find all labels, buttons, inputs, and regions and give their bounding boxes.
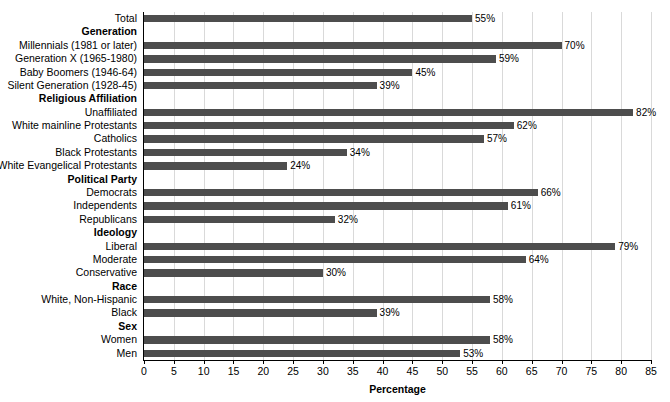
x-tick-label: 75 xyxy=(586,365,598,377)
bar-row: 58% xyxy=(144,333,651,346)
bar-row: 58% xyxy=(144,293,651,306)
category-label: White mainline Protestants xyxy=(12,119,137,132)
x-tick xyxy=(651,360,652,364)
category-label: Millennials (1981 or later) xyxy=(19,39,137,52)
x-tick-label: 25 xyxy=(287,365,299,377)
category-label-row: Women xyxy=(0,333,140,346)
category-label-row: Black xyxy=(0,306,140,319)
group-header-row: Generation xyxy=(0,25,140,38)
x-tick xyxy=(591,360,592,364)
bar-value-label: 62% xyxy=(514,119,537,132)
x-axis-line xyxy=(143,360,652,361)
bar-value-label: 66% xyxy=(538,186,561,199)
category-label: Baby Boomers (1946-64) xyxy=(20,66,137,79)
bar-row: 62% xyxy=(144,119,651,132)
bar xyxy=(144,122,514,129)
category-label-row: Moderate xyxy=(0,253,140,266)
group-header-label: Race xyxy=(112,280,137,293)
x-tick-label: 40 xyxy=(377,365,389,377)
x-tick-label: 0 xyxy=(141,365,147,377)
bar-value-label: 58% xyxy=(490,333,513,346)
category-label-row: Silent Generation (1928-45) xyxy=(0,79,140,92)
bar xyxy=(144,162,287,169)
x-tick xyxy=(442,360,443,364)
category-label-row: Liberal xyxy=(0,240,140,253)
x-tick xyxy=(621,360,622,364)
category-label-row: Conservative xyxy=(0,266,140,279)
category-label: White, Non-Hispanic xyxy=(41,293,137,306)
bar-value-label: 53% xyxy=(460,347,483,360)
group-header-row: Religious Affiliation xyxy=(0,92,140,105)
x-tick xyxy=(174,360,175,364)
bar xyxy=(144,216,335,223)
clipped-title-remnant xyxy=(0,0,670,7)
x-tick-label: 15 xyxy=(228,365,240,377)
bar xyxy=(144,350,460,357)
category-label: Moderate xyxy=(93,253,137,266)
category-label: Independents xyxy=(73,199,137,212)
bar-row: 59% xyxy=(144,52,651,65)
bar xyxy=(144,135,484,142)
group-header-row: Political Party xyxy=(0,173,140,186)
category-label-row: Millennials (1981 or later) xyxy=(0,39,140,52)
bar xyxy=(144,69,412,76)
category-label-row: Democrats xyxy=(0,186,140,199)
category-label: Unaffiliated xyxy=(85,106,137,119)
category-label-row: Unaffiliated xyxy=(0,106,140,119)
bar xyxy=(144,55,496,62)
bar xyxy=(144,15,472,22)
bar-row: 24% xyxy=(144,159,651,172)
x-tick-label: 10 xyxy=(198,365,210,377)
x-tick-label: 65 xyxy=(526,365,538,377)
group-header-label: Generation xyxy=(82,25,137,38)
category-label: Total xyxy=(115,12,137,25)
bar xyxy=(144,109,633,116)
bar-value-label: 59% xyxy=(496,52,519,65)
bar xyxy=(144,42,562,49)
bar xyxy=(144,309,377,316)
bar-value-label: 45% xyxy=(412,66,435,79)
bar-row: 55% xyxy=(144,12,651,25)
bar-value-label: 24% xyxy=(287,159,310,172)
x-tick-label: 50 xyxy=(436,365,448,377)
category-label-row: White mainline Protestants xyxy=(0,119,140,132)
bar-value-label: 39% xyxy=(377,306,400,319)
bar-value-label: 55% xyxy=(472,12,495,25)
group-header-label: Ideology xyxy=(94,226,137,239)
category-label: Generation X (1965-1980) xyxy=(15,52,137,65)
group-header-label: Sex xyxy=(118,320,137,333)
x-tick-label: 35 xyxy=(347,365,359,377)
group-header-label: Religious Affiliation xyxy=(39,92,137,105)
category-label-row: White Evangelical Protestants xyxy=(0,159,140,172)
bar-value-label: 82% xyxy=(633,106,656,119)
category-label-column: TotalGenerationMillennials (1981 or late… xyxy=(0,12,140,360)
bar xyxy=(144,243,615,250)
group-header-row: Sex xyxy=(0,320,140,333)
category-label-row: Men xyxy=(0,347,140,360)
x-tick xyxy=(263,360,264,364)
bar-value-label: 64% xyxy=(526,253,549,266)
category-label: Conservative xyxy=(76,266,137,279)
category-label: Republicans xyxy=(79,213,137,226)
x-axis-title: Percentage xyxy=(144,383,651,395)
bar xyxy=(144,296,490,303)
x-tick-label: 20 xyxy=(257,365,269,377)
bar xyxy=(144,202,508,209)
bar xyxy=(144,256,526,263)
x-tick-label: 80 xyxy=(615,365,627,377)
x-tick-label: 60 xyxy=(496,365,508,377)
x-tick-label: 85 xyxy=(645,365,657,377)
bar-row: 39% xyxy=(144,306,651,319)
category-label: Liberal xyxy=(105,240,137,253)
bar-value-label: 61% xyxy=(508,199,531,212)
category-label: Catholics xyxy=(94,132,137,145)
bar-value-label: 34% xyxy=(347,146,370,159)
x-tick xyxy=(293,360,294,364)
x-tick xyxy=(502,360,503,364)
bar-row: 79% xyxy=(144,240,651,253)
category-label-row: Total xyxy=(0,12,140,25)
x-tick xyxy=(323,360,324,364)
x-tick xyxy=(144,360,145,364)
bar-row: 53% xyxy=(144,347,651,360)
bar-chart: TotalGenerationMillennials (1981 or late… xyxy=(0,0,670,402)
